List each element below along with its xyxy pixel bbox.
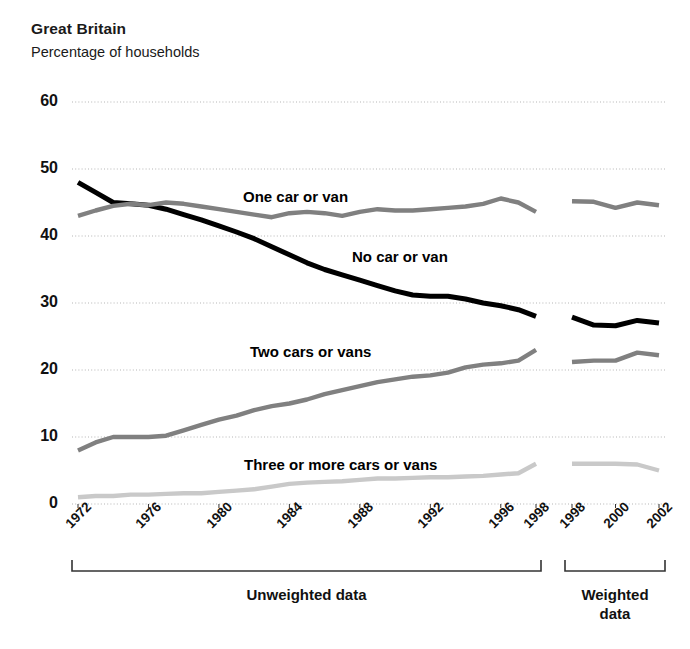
y-tick-label: 60 [18,93,58,109]
bracket-label: Weighted data [565,586,665,624]
y-tick-label: 40 [18,227,58,243]
chart-canvas [0,0,690,649]
y-tick-label: 30 [18,294,58,310]
bracket-label: Unweighted data [72,586,541,605]
gridlines [72,102,666,504]
y-tick-label: 10 [18,428,58,444]
series-line-two-cars-or-vans-weighted [572,353,659,362]
chart-root: Great Britain Percentage of households 0… [0,0,690,649]
series-annotation: Two cars or vans [250,343,371,360]
series-line-one-car-or-van-weighted [572,201,659,208]
plot-area: 0102030405060 19721976198019841988199219… [0,0,690,649]
axis-brackets [72,560,665,571]
series-line-three-or-more-cars-or-vans-weighted [572,464,659,471]
series-lines [78,182,659,497]
series-line-no-car-or-van-weighted [572,317,659,326]
axis-bracket [72,560,541,571]
y-tick-label: 20 [18,361,58,377]
y-tick-label: 0 [18,495,58,511]
series-annotation: One car or van [243,188,348,205]
axis-bracket [565,560,665,571]
y-tick-label: 50 [18,160,58,176]
series-line-two-cars-or-vans-unweighted [78,350,536,451]
series-annotation: No car or van [352,248,448,265]
series-annotation: Three or more cars or vans [244,456,437,473]
